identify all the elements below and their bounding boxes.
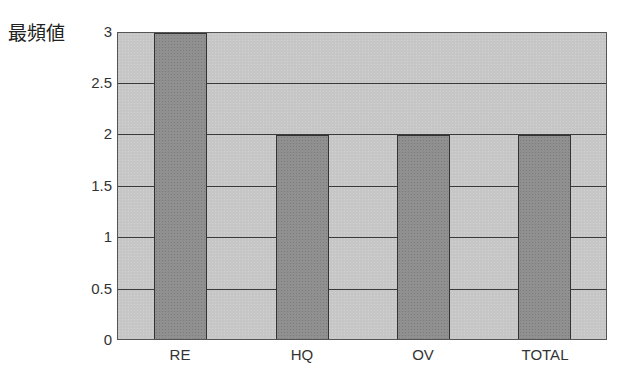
- x-category-label: TOTAL: [505, 346, 585, 363]
- y-tick: 0.5: [72, 280, 112, 297]
- y-tick: 2: [72, 125, 112, 142]
- plot-area: [117, 32, 607, 340]
- y-axis-label: 最頻値: [8, 18, 65, 45]
- y-tick: 1.5: [72, 177, 112, 194]
- y-tick: 2.5: [72, 74, 112, 91]
- y-tick: 3: [72, 23, 112, 40]
- x-category-label: HQ: [262, 346, 342, 363]
- bar-ov: [397, 135, 450, 339]
- x-category-label: OV: [383, 346, 463, 363]
- x-category-label: RE: [140, 346, 220, 363]
- y-tick: 0: [72, 331, 112, 348]
- bar-hq: [276, 135, 329, 339]
- y-tick: 1: [72, 228, 112, 245]
- bar-re: [154, 33, 207, 339]
- bar-total: [518, 135, 571, 339]
